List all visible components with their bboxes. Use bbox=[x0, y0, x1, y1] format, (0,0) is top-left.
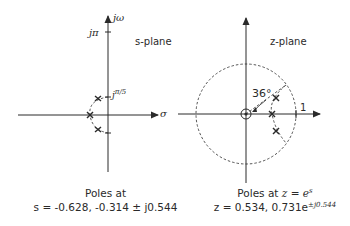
s-plane-caption: Poles at s = -0.628, -0.314 ± j0.544 bbox=[18, 186, 193, 214]
s-tick-jpi-label: jπ bbox=[89, 28, 99, 38]
z-angle-label: 36° bbox=[252, 88, 272, 99]
z-caption-line2: z = 0.534, 0.731e±j0.544 bbox=[195, 200, 350, 214]
z-pole-marker-lower bbox=[273, 128, 279, 134]
s-real-axis-label: σ bbox=[160, 109, 167, 119]
s-tick-jpi5-label: jπ/5 bbox=[112, 89, 126, 100]
s-plane-title: s-plane bbox=[135, 37, 172, 47]
s-imag-axis-label: jω bbox=[113, 13, 124, 23]
z-unit-label: 1 bbox=[300, 103, 306, 113]
z-plane-title: z-plane bbox=[270, 37, 307, 47]
s-caption-line2: s = -0.628, -0.314 ± j0.544 bbox=[18, 200, 193, 214]
s-pole-marker-lower bbox=[95, 127, 101, 132]
z-caption-line1: Poles at z = es bbox=[195, 186, 350, 200]
s-caption-line1: Poles at bbox=[18, 186, 193, 200]
z-plane-caption: Poles at z = es z = 0.534, 0.731e±j0.544 bbox=[195, 186, 350, 214]
